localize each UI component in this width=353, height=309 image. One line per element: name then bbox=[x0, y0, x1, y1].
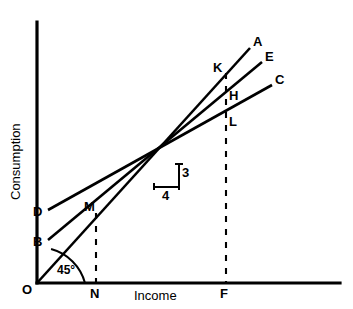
consumption-function-diagram: Consumption Income 45° 3 4 O D B M N K H… bbox=[0, 0, 353, 309]
point-label-O: O bbox=[22, 282, 32, 297]
line-endpoint-label-E: E bbox=[265, 49, 274, 64]
point-label-H: H bbox=[229, 88, 238, 103]
point-label-L: L bbox=[229, 114, 237, 129]
point-label-M: M bbox=[84, 199, 95, 214]
point-label-K: K bbox=[213, 60, 223, 75]
point-label-N: N bbox=[90, 286, 99, 301]
x-axis-label: Income bbox=[134, 288, 177, 303]
line-DC bbox=[48, 85, 272, 210]
slope-run-label: 4 bbox=[162, 188, 170, 203]
diagram-canvas: Consumption Income 45° 3 4 O D B M N K H… bbox=[0, 0, 353, 309]
point-label-F: F bbox=[220, 286, 228, 301]
angle-label-45: 45° bbox=[57, 263, 75, 277]
slope-rise-label: 3 bbox=[182, 165, 189, 180]
line-endpoint-label-C: C bbox=[275, 72, 285, 87]
point-label-B: B bbox=[33, 234, 42, 249]
y-axis-label: Consumption bbox=[8, 123, 23, 200]
line-OA bbox=[37, 48, 250, 283]
point-label-D: D bbox=[33, 204, 42, 219]
line-endpoint-label-A: A bbox=[253, 34, 263, 49]
